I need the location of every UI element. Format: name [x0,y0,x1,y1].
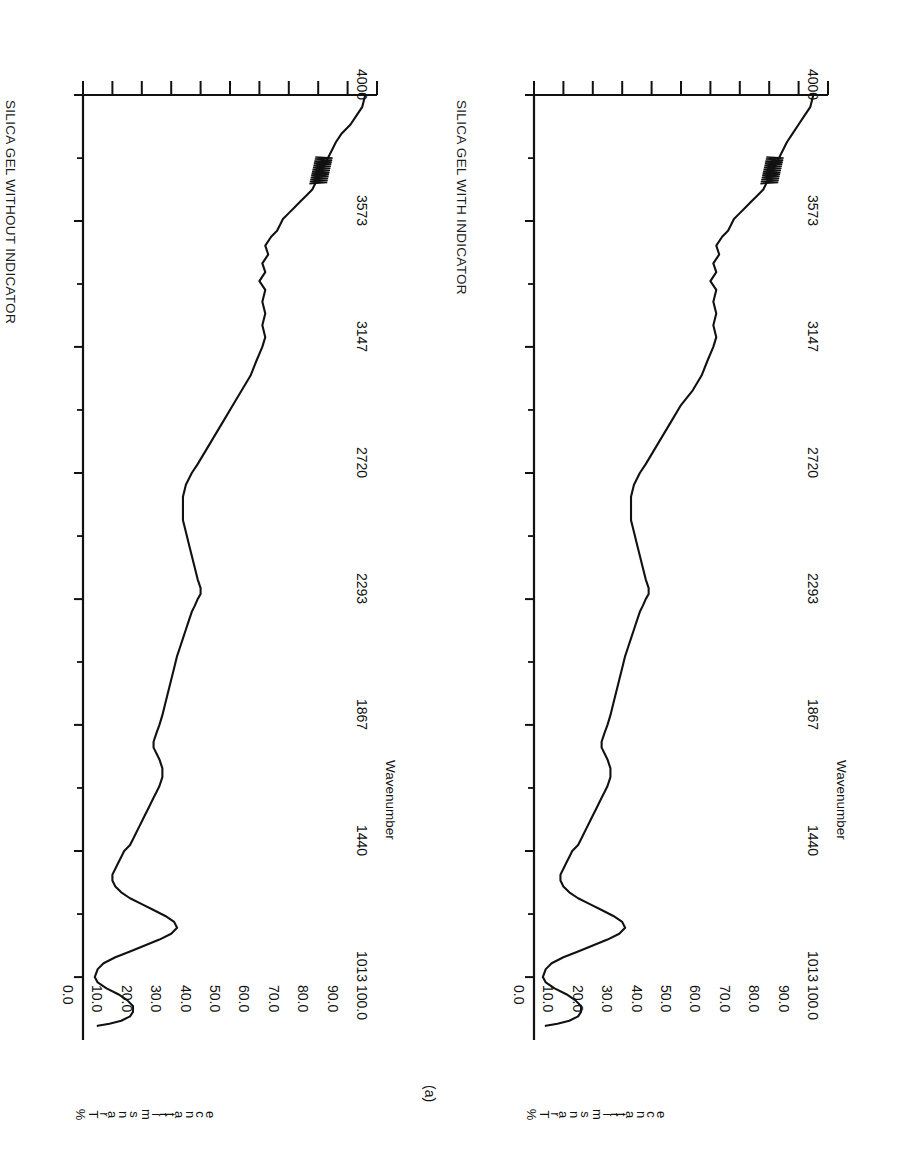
spectrum-axes [504,55,834,1055]
y-tick-label: 50.0 [207,985,223,1012]
x-tick-label: 2720 [805,447,821,478]
y-tick-label: 10.0 [89,985,105,1012]
x-tick-label: 2293 [805,573,821,604]
y-tick-label: 80.0 [746,985,762,1012]
y-tick-label: 0.0 [60,985,76,1004]
x-tick-label: 3147 [354,321,370,352]
y-axis-title-char: e [655,1111,668,1118]
spectrum-axes [53,55,383,1055]
spectrum-trace [95,95,365,1026]
y-tick-label: 50.0 [658,985,674,1012]
y-tick-label: 70.0 [266,985,282,1012]
y-tick-label: 40.0 [178,985,194,1012]
x-tick-label: 1013 [354,951,370,982]
y-tick-label: 100.0 [805,985,821,1020]
x-tick-label: 1013 [805,951,821,982]
y-tick-label: 30.0 [148,985,164,1012]
y-tick-label: 60.0 [236,985,252,1012]
x-tick-label: 4000 [354,69,370,100]
y-tick-label: 60.0 [687,985,703,1012]
y-tick-label: 90.0 [325,985,341,1012]
panel-a-y-axis-title: %Transmittance [75,1108,215,1121]
x-tick-label: 4000 [805,69,821,100]
y-tick-label: 100.0 [354,985,370,1020]
y-tick-label: 70.0 [717,985,733,1012]
y-tick-label: 90.0 [776,985,792,1012]
panel-a-plot [53,55,383,1055]
x-tick-label: 1440 [805,825,821,856]
y-axis-title-char: % [525,1109,538,1121]
panel-b-y-axis-title: %Transmittance [526,1108,666,1121]
y-tick-label: 20.0 [119,985,135,1012]
spectrum-panel-a: SILICA GEL WITHOUT INDICATOR 0.010.020.0… [0,0,451,1161]
panel-b-plot [504,55,834,1055]
x-tick-label: 2720 [354,447,370,478]
y-axis-title-char: % [74,1109,87,1121]
panel-b-x-axis-title: Wavenumber [834,760,849,840]
x-tick-label: 1867 [805,699,821,730]
x-tick-label: 1867 [354,699,370,730]
panel-b-title: SILICA GEL WITH INDICATOR [454,100,469,295]
figure-panel-label: (a) [422,1085,438,1102]
y-axis-title-char: e [204,1111,217,1118]
x-tick-label: 1440 [354,825,370,856]
panel-a-x-axis-title: Wavenumber [383,760,398,840]
spectrum-panel-b: SILICA GEL WITH INDICATOR 0.010.020.030.… [451,0,902,1161]
spectrum-trace [543,95,813,1026]
panel-a-title: SILICA GEL WITHOUT INDICATOR [3,100,18,324]
x-tick-label: 3573 [805,195,821,226]
y-tick-label: 40.0 [629,985,645,1012]
y-tick-label: 10.0 [540,985,556,1012]
y-tick-label: 80.0 [295,985,311,1012]
y-tick-label: 20.0 [570,985,586,1012]
x-tick-label: 2293 [354,573,370,604]
x-tick-label: 3147 [805,321,821,352]
x-tick-label: 3573 [354,195,370,226]
y-tick-label: 0.0 [511,985,527,1004]
y-tick-label: 30.0 [599,985,615,1012]
